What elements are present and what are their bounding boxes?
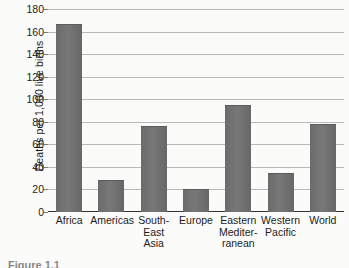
y-axis-tick-label: 60 — [32, 138, 44, 150]
x-axis-labels: AfricaAmericasSouth-EastAsiaEuropeEaster… — [48, 215, 344, 261]
bar-slot — [175, 9, 217, 212]
y-axis-tick-label: 160 — [26, 26, 44, 38]
x-axis-category-label: Europe — [175, 215, 217, 227]
y-axis-tick-label: 140 — [26, 48, 44, 60]
x-axis-category-label: Americas — [90, 215, 132, 227]
x-axis-label-line: Asia — [133, 238, 175, 250]
x-axis-label-line: Africa — [48, 215, 90, 227]
x-axis-category-label: Africa — [48, 215, 90, 227]
x-axis-label-line: Eastern — [217, 215, 259, 227]
x-axis-label-line: Americas — [90, 215, 132, 227]
bar[interactable] — [141, 126, 167, 212]
bar[interactable] — [56, 24, 82, 212]
x-axis-label-line: South- — [133, 215, 175, 227]
x-axis-category-label: World — [302, 215, 344, 227]
bar-slot — [259, 9, 301, 212]
y-axis-tickmark — [44, 212, 48, 213]
bar[interactable] — [225, 105, 251, 212]
y-axis-tick-label: 0 — [38, 206, 44, 218]
bar-slot — [302, 9, 344, 212]
x-axis-category-label: WesternPacific — [259, 215, 301, 238]
plot-area: 020406080100120140160180 — [48, 9, 344, 212]
x-axis-label-line: World — [302, 215, 344, 227]
bar-slot — [90, 9, 132, 212]
bar-slot — [133, 9, 175, 212]
bar-slot — [48, 9, 90, 212]
bar[interactable] — [268, 173, 294, 212]
x-axis-label-line: ranean — [217, 238, 259, 250]
bar[interactable] — [310, 124, 336, 212]
bar[interactable] — [183, 189, 209, 212]
y-axis-tick-label: 100 — [26, 93, 44, 105]
bar[interactable] — [98, 180, 124, 212]
y-axis-tick-label: 120 — [26, 71, 44, 83]
y-axis-tick-label: 80 — [32, 116, 44, 128]
x-axis-label-line: Europe — [175, 215, 217, 227]
figure-caption: Figure 1.1 — [8, 259, 60, 268]
y-axis-tick-label: 180 — [26, 3, 44, 15]
bar-slot — [217, 9, 259, 212]
bar-series — [48, 9, 344, 212]
x-axis-label-line: Western — [259, 215, 301, 227]
y-axis-tick-label: 20 — [32, 183, 44, 195]
y-axis-tick-label: 40 — [32, 161, 44, 173]
x-axis-category-label: South-EastAsia — [133, 215, 175, 250]
x-axis-category-label: EasternMediter-ranean — [217, 215, 259, 250]
x-axis-label-line: Pacific — [259, 227, 301, 239]
figure-container: Deaths per 1,000 live births 02040608010… — [0, 0, 349, 268]
